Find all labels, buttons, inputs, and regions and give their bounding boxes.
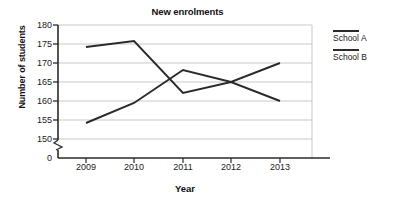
x-axis xyxy=(58,158,330,163)
legend-item-school-a: School A xyxy=(333,30,367,44)
legend-swatch-school-b xyxy=(333,49,359,51)
legend-label-school-b: School B xyxy=(333,52,367,63)
legend-swatch-school-a xyxy=(333,30,359,32)
chart-container: New enrolments Number of students Year 1… xyxy=(0,0,393,204)
y-axis xyxy=(53,25,62,158)
legend-label-school-a: School A xyxy=(333,33,367,44)
legend: School A School B xyxy=(333,30,367,68)
legend-item-school-b: School B xyxy=(333,49,367,63)
